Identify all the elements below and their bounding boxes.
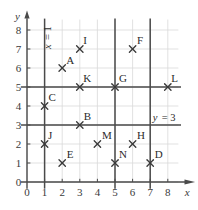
x-tick-label-3: 3: [77, 186, 83, 198]
point-label-I: I: [83, 34, 87, 46]
point-label-C: C: [49, 91, 56, 103]
point-label-F: F: [137, 34, 143, 46]
y-tick-label-4: 4: [16, 100, 22, 112]
point-label-L: L: [171, 72, 178, 84]
y-tick-label-8: 8: [16, 24, 22, 36]
x-tick-label-0: 0: [24, 186, 30, 198]
plot-canvas: 012345678012345678xy ABCDEFGHIJKLMN x = …: [0, 0, 198, 210]
y-axis-label: y: [14, 10, 20, 22]
annot-var: y: [152, 112, 158, 123]
annot-eq: =: [42, 32, 53, 43]
point-label-N: N: [119, 148, 127, 160]
x-tick-label-5: 5: [112, 186, 118, 198]
annot-val: 3: [170, 112, 175, 123]
y-tick-label-1: 1: [16, 157, 22, 169]
x-axis-label: x: [184, 186, 190, 198]
point-label-J: J: [48, 129, 53, 141]
y-tick-label-2: 2: [16, 138, 22, 150]
point-label-B: B: [84, 110, 91, 122]
y-tick-label-7: 7: [16, 43, 22, 55]
x-tick-label-7: 7: [147, 186, 153, 198]
point-label-K: K: [83, 72, 91, 84]
annot-var: x: [42, 44, 53, 50]
point-label-M: M: [102, 129, 112, 141]
coordinate-grid-figure: 012345678012345678xy ABCDEFGHIJKLMN x = …: [0, 0, 198, 210]
y-tick-label-6: 6: [16, 62, 22, 74]
point-label-D: D: [155, 148, 163, 160]
y-axis-arrowhead: [24, 11, 29, 19]
point-label-E: E: [67, 148, 74, 160]
y-tick-label-5: 5: [16, 81, 22, 93]
annotation-y-equals-3: y = 3: [152, 112, 176, 123]
x-tick-label-4: 4: [95, 186, 101, 198]
tick-labels-group: 012345678012345678xy: [14, 10, 190, 198]
x-axis-arrowhead: [185, 179, 196, 184]
point-label-H: H: [137, 129, 145, 141]
x-tick-label-1: 1: [42, 186, 48, 198]
y-tick-label-3: 3: [16, 119, 22, 131]
x-tick-label-8: 8: [165, 186, 171, 198]
x-tick-label-2: 2: [59, 186, 65, 198]
point-label-A: A: [66, 54, 74, 66]
annotation-x-equals-1: x = 1: [42, 26, 53, 50]
annot-eq: =: [159, 112, 170, 123]
point-labels-group: ABCDEFGHIJKLMN: [48, 34, 178, 160]
annot-val: 1: [42, 26, 53, 31]
x-tick-label-6: 6: [130, 186, 136, 198]
y-tick-label-0: 0: [16, 176, 22, 188]
point-label-G: G: [119, 72, 127, 84]
